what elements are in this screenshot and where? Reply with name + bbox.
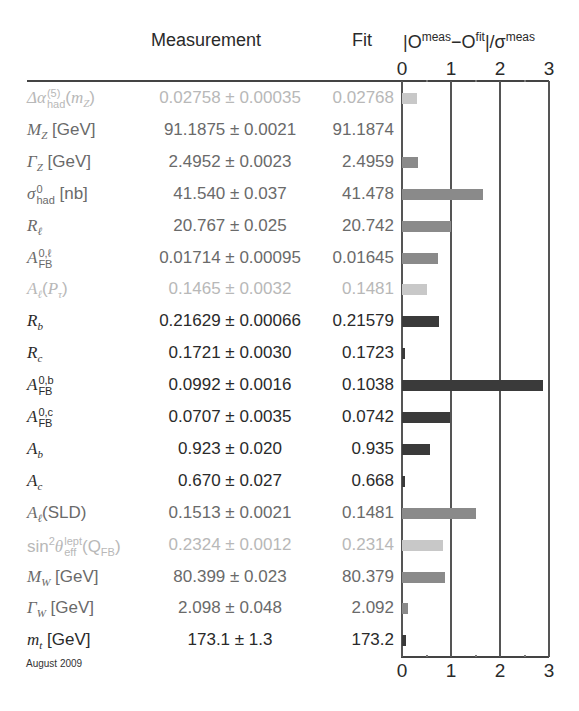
observable-label: Aℓ(SLD) [27, 503, 86, 524]
bottom-tick-2: 2 [495, 660, 506, 682]
observable-label: mt [GeV] [27, 630, 91, 651]
fit-value: 173.2 [290, 630, 394, 650]
pull-bar [402, 540, 443, 551]
fit-value: 0.1723 [290, 343, 394, 363]
observable-label: sin2θlepteff(QFB) [27, 535, 121, 558]
pull-bar [402, 572, 445, 583]
fit-value: 0.668 [290, 471, 394, 491]
pull-bar [402, 603, 408, 614]
observable-label: MW [GeV] [27, 567, 99, 588]
pull-bar [402, 412, 450, 423]
fit-value: 20.742 [290, 216, 394, 236]
table-row: Rc0.1721 ± 0.00300.1723 [0, 339, 579, 368]
observable-label: Ac [27, 471, 42, 492]
table-row: Rℓ20.767 ± 0.02520.742 [0, 212, 579, 241]
pull-bar [402, 508, 476, 519]
fit-value: 0.1481 [290, 279, 394, 299]
table-row: A0,bFB0.0992 ± 0.00160.1038 [0, 371, 579, 400]
table-row: Aℓ(SLD)0.1513 ± 0.00210.1481 [0, 499, 579, 528]
table-row: Ab0.923 ± 0.0200.935 [0, 435, 579, 464]
pull-bar [402, 444, 430, 455]
minor-tick [524, 80, 526, 82]
minor-tick [524, 655, 526, 657]
observable-label: ΓW [GeV] [27, 598, 94, 619]
fit-value: 0.935 [290, 439, 394, 459]
top-tick-2: 2 [495, 58, 506, 80]
pull-bar [402, 157, 418, 168]
table-row: Rb0.21629 ± 0.000660.21579 [0, 307, 579, 336]
table-row: sin2θlepteff(QFB)0.2324 ± 0.00120.2314 [0, 531, 579, 560]
fit-value: 80.379 [290, 567, 394, 587]
fit-column-header: Fit [352, 30, 372, 51]
bottom-tick-0: 0 [397, 660, 408, 682]
table-row: mt [GeV]173.1 ± 1.3173.2 [0, 626, 579, 655]
observable-label: Rℓ [27, 216, 42, 237]
table-row: Aℓ(Pτ)0.1465 ± 0.00320.1481 [0, 275, 579, 304]
table-row: A0,cFB0.0707 ± 0.00350.0742 [0, 403, 579, 432]
table-row: Ac0.670 ± 0.0270.668 [0, 467, 579, 496]
pull-bar [402, 635, 406, 646]
measurement-column-header: Measurement [151, 30, 261, 51]
bottom-tick-1: 1 [446, 660, 457, 682]
header-divider [27, 80, 401, 82]
fit-value: 0.1038 [290, 375, 394, 395]
table-row: ΓW [GeV]2.098 ± 0.0482.092 [0, 594, 579, 623]
observable-label: A0,cFB [27, 407, 53, 429]
observable-label: Rb [27, 311, 43, 332]
fit-value: 2.4959 [290, 152, 394, 172]
table-row: MW [GeV]80.399 ± 0.02380.379 [0, 563, 579, 592]
pull-bar [402, 253, 438, 264]
observable-label: ΓZ [GeV] [27, 152, 91, 173]
date-annotation: August 2009 [26, 658, 82, 669]
observable-label: MZ [GeV] [27, 120, 95, 141]
fit-value: 0.02768 [290, 88, 394, 108]
pull-bar [402, 380, 543, 391]
observable-label: Δα(5)had(mZ) [27, 88, 95, 110]
pull-bar [402, 284, 427, 295]
fit-value: 0.21579 [290, 311, 394, 331]
fit-value: 2.092 [290, 598, 394, 618]
fit-value: 0.1481 [290, 503, 394, 523]
top-tick-1: 1 [446, 58, 457, 80]
pull-bar [402, 348, 405, 359]
top-tick-0: 0 [397, 58, 408, 80]
fit-value: 0.0742 [290, 407, 394, 427]
pull-bar [402, 316, 439, 327]
minor-tick [475, 80, 477, 82]
minor-tick [475, 655, 477, 657]
fit-value: 0.01645 [290, 248, 394, 268]
fit-value: 91.1874 [290, 120, 394, 140]
observable-label: Aℓ(Pτ) [27, 279, 68, 300]
minor-tick [426, 655, 428, 657]
fit-value: 41.478 [290, 184, 394, 204]
pull-column-header: |Omeas−Ofit|/σmeas [403, 30, 535, 53]
table-row: MZ [GeV]91.1875 ± 0.002191.1874 [0, 116, 579, 145]
observable-label: Rc [27, 343, 42, 364]
top-tick-3: 3 [544, 58, 555, 80]
table-row: σ0had [nb]41.540 ± 0.03741.478 [0, 180, 579, 209]
fit-value: 0.2314 [290, 535, 394, 555]
observable-label: A0,ℓFB [27, 248, 52, 270]
observable-label: A0,bFB [27, 375, 54, 397]
table-row: Δα(5)had(mZ)0.02758 ± 0.000350.02768 [0, 84, 579, 113]
observable-label: σ0had [nb] [27, 184, 88, 206]
pull-bar [402, 93, 417, 104]
table-row: A0,ℓFB0.01714 ± 0.000950.01645 [0, 244, 579, 273]
observable-label: Ab [27, 439, 43, 460]
pull-bar [402, 221, 451, 232]
pull-bar [402, 476, 405, 487]
pull-bar [402, 189, 483, 200]
bottom-tick-3: 3 [544, 660, 555, 682]
minor-tick [426, 80, 428, 82]
table-row: ΓZ [GeV]2.4952 ± 0.00232.4959 [0, 148, 579, 177]
